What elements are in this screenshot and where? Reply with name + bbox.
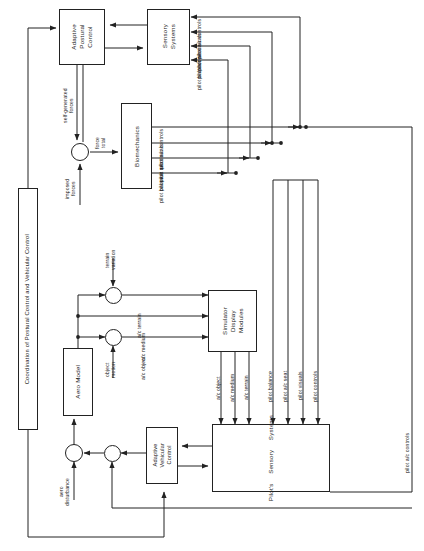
label-aero-disturbance: aero disturbance: [58, 466, 71, 518]
node-pilots-sensory-systems[interactable]: Pilot's Sensory Systems: [212, 424, 330, 492]
node-simulator-display-modules-label: Simulator Display Modules: [209, 291, 256, 351]
node-adaptive-postural-control-label: Adaptive Postural Control: [60, 10, 104, 64]
label-biomechanics-output-3: pilot balance: [158, 164, 165, 210]
node-adaptive-vehicular-control[interactable]: Adaptive Vehicular Control: [146, 427, 178, 484]
node-aero-model-label: Aero Model: [64, 349, 92, 415]
label-pilot-sensory-input-3: pilot controls: [312, 356, 319, 416]
ss-line-1: Sensory: [161, 25, 168, 49]
label-pilot-sensory-input-2: pilot visuals: [297, 356, 304, 416]
node-simulator-display-modules[interactable]: Simulator Display Modules: [208, 290, 257, 352]
label-display-to-pilot-1: a/c medium: [229, 360, 236, 416]
label-object-motion: object motion: [104, 350, 117, 390]
apc-line-3: Control: [86, 26, 93, 47]
avc-line-1: Adaptive: [152, 444, 158, 467]
label-imposed-forces: imposed forces: [64, 170, 77, 208]
block-diagram-canvas: Coordination of Postural Control and Veh…: [0, 0, 424, 551]
node-aero-model[interactable]: Aero Model: [63, 348, 93, 416]
sdm-line-2: Display: [229, 310, 236, 332]
summing-junction-total-force: [71, 143, 89, 161]
label-display-to-pilot-2: a/c terrain: [243, 360, 250, 416]
pss-line-1: Pilot's: [267, 483, 274, 501]
node-coordination-label: Coordination of Postural Control and Veh…: [19, 189, 37, 429]
tot-2: force: [94, 137, 100, 149]
node-adaptive-postural-control[interactable]: Adaptive Postural Control: [59, 9, 105, 65]
label-self-generated-forces: self-generated forces: [62, 74, 75, 138]
sgf-2: forces: [68, 99, 74, 114]
node-adaptive-vehicular-control-label: Adaptive Vehicular Control: [147, 428, 177, 483]
imp-1: imposed: [64, 179, 70, 199]
imp-2: forces: [70, 182, 76, 197]
sdm-line-3: Modules: [236, 309, 243, 334]
sdm-line-1: Simulator: [221, 307, 228, 335]
label-total-force: force total: [94, 133, 107, 153]
summing-junction-object: [105, 329, 122, 346]
node-biomechanics[interactable]: Biomechanics: [121, 103, 152, 189]
label-pilot-sensory-input-1: pilot a/c seat: [282, 356, 289, 416]
summing-junction-terrain: [105, 287, 122, 304]
label-sensory-input-3: pilot balance: [196, 51, 203, 97]
apc-line-1: Adaptive: [70, 24, 77, 50]
pss-line-3: Systems: [267, 415, 274, 440]
node-coordination[interactable]: Coordination of Postural Control and Veh…: [18, 188, 38, 430]
avc-line-2: Vehicular: [159, 443, 165, 467]
node-biomechanics-label: Biomechanics: [122, 104, 151, 188]
label-far-right-pilot-ac-controls: pilot a/c controls: [404, 418, 411, 488]
pss-line-2: Sensory: [267, 450, 274, 474]
label-terrain-variation: terrain variation: [104, 238, 117, 282]
node-sensory-systems[interactable]: Sensory Systems: [147, 9, 190, 65]
label-display-to-pilot-0: a/c object: [215, 360, 222, 416]
sgf-1: self-generated: [62, 89, 68, 124]
label-aero-to-display-2: a/c object: [140, 340, 147, 396]
ss-line-2: Systems: [169, 24, 176, 49]
node-sensory-systems-label: Sensory Systems: [148, 10, 189, 64]
label-pilot-sensory-input-0: pilot balance: [267, 356, 274, 416]
summing-junction-aero: [65, 444, 83, 462]
avc-line-3: Control: [165, 446, 171, 465]
tot-1: total: [100, 138, 106, 148]
apc-line-2: Postural: [78, 25, 85, 49]
summing-junction-vehicular: [104, 445, 121, 462]
node-pilots-sensory-systems-label: Pilot's Sensory Systems: [213, 425, 329, 491]
